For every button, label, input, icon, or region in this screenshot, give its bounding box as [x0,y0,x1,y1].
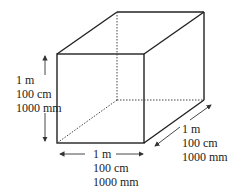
height-label-m: 1 m [16,74,34,87]
height-label-mm: 1000 mm [16,102,62,115]
depth-label-cm: 100 cm [182,137,218,150]
cube-diagram: 1 m 100 cm 1000 mm 1 m 100 cm 1000 mm 1 … [0,0,228,194]
depth-label-mm: 1000 mm [182,151,228,164]
depth-label-m: 1 m [182,123,200,136]
width-label-m: 1 m [93,148,111,161]
width-label-cm: 100 cm [93,162,129,175]
width-label-mm: 1000 mm [93,176,139,189]
height-label-cm: 100 cm [16,88,52,101]
